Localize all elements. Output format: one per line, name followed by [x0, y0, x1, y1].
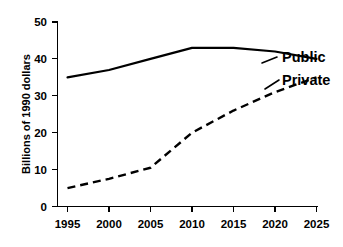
- y-tick-label-40: 40: [34, 53, 47, 65]
- x-tick-label-1995: 1995: [55, 218, 81, 230]
- y-tick-label-10: 10: [34, 164, 47, 176]
- x-tick-label-2015: 2015: [221, 218, 247, 230]
- chart-background: [0, 0, 343, 247]
- y-tick-label-20: 20: [34, 127, 47, 139]
- y-tick-label-0: 0: [41, 201, 47, 213]
- series-label-public: Public: [282, 49, 326, 65]
- x-tick-label-2020: 2020: [262, 218, 288, 230]
- series-label-private: Private: [282, 72, 330, 88]
- y-tick-label-30: 30: [34, 90, 47, 102]
- y-axis-title: Billions of 1990 dollars: [20, 54, 32, 174]
- x-tick-label-2010: 2010: [179, 218, 205, 230]
- line-chart-figure: 50 40 30 20 10 0 1995 2000 2005 2010 201…: [0, 0, 343, 247]
- x-tick-label-2005: 2005: [138, 218, 164, 230]
- x-tick-label-2000: 2000: [96, 218, 122, 230]
- x-tick-label-2025: 2025: [304, 218, 330, 230]
- y-tick-label-50: 50: [34, 16, 47, 28]
- chart-plot-area: 50 40 30 20 10 0 1995 2000 2005 2010 201…: [0, 0, 343, 247]
